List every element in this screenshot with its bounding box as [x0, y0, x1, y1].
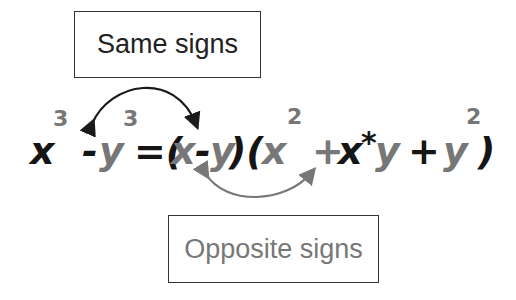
eq-minus: - [82, 132, 98, 170]
eq-x: x [338, 132, 363, 170]
difference-of-cubes-diagram: Same signs Opposite signs x 3 - y 3 =( x… [0, 0, 516, 300]
eq-exp-3: 3 [123, 108, 138, 130]
eq-y: y [99, 132, 124, 170]
eq-y: y [443, 132, 468, 170]
eq-x: x [171, 132, 196, 170]
eq-minus: - [195, 132, 211, 170]
eq-close-paren: ) [478, 132, 495, 170]
eq-exp-2: 2 [466, 106, 481, 128]
eq-x: x [262, 132, 287, 170]
eq-paren-pair: )( [229, 132, 264, 170]
eq-x: x [30, 132, 55, 170]
eq-exp-2: 2 [287, 106, 302, 128]
eq-y: y [375, 132, 400, 170]
opposite-signs-arrow [206, 172, 312, 197]
eq-plus: + [408, 132, 440, 170]
same-signs-arrow [92, 88, 196, 124]
eq-exp-3: 3 [53, 108, 68, 130]
